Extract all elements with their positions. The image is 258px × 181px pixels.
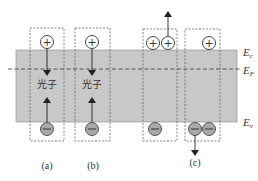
photon-label: 光子 bbox=[82, 78, 102, 90]
caption-b: (b) bbox=[87, 160, 99, 172]
label-ev: Ev bbox=[242, 116, 254, 130]
level-labels: Ec EF Ev bbox=[242, 46, 255, 130]
svg-text:+: + bbox=[148, 37, 157, 50]
label-ec: Ec bbox=[242, 46, 254, 60]
caption-a: (a) bbox=[41, 160, 52, 172]
svg-text:+: + bbox=[42, 36, 51, 49]
band-diagram: + 光子 (a) + 光子 (b) + + + (c) bbox=[0, 0, 258, 181]
svg-text:+: + bbox=[204, 37, 213, 50]
svg-text:+: + bbox=[163, 37, 172, 50]
photon-label: 光子 bbox=[37, 78, 57, 90]
svg-text:+: + bbox=[87, 36, 96, 49]
label-ef: EF bbox=[242, 64, 255, 78]
caption-c: (c) bbox=[189, 157, 200, 169]
